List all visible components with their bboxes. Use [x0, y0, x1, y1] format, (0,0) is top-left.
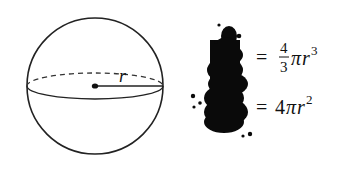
center-point [92, 83, 98, 88]
coefficient: 4 [275, 96, 285, 118]
volume-formula: = 4 3 π r 3 [256, 40, 318, 75]
exponent: 2 [306, 92, 313, 107]
pi-symbol: π [291, 47, 302, 69]
fraction-denominator: 3 [280, 59, 288, 75]
sphere-formula-diagram: r = 4 3 π r 3 = 4 π r 2 [0, 0, 342, 179]
variable-r: r [297, 96, 305, 118]
surface-area-formula: = 4 π r 2 [256, 92, 313, 118]
radius-label: r [119, 66, 127, 86]
equals-sign: = [256, 96, 267, 118]
pi-symbol: π [286, 96, 297, 118]
ink-blot-icon [191, 23, 252, 137]
variable-r: r [302, 47, 310, 69]
equals-sign: = [256, 46, 267, 68]
fraction-numerator: 4 [280, 40, 288, 56]
exponent: 3 [311, 43, 318, 58]
sphere: r [27, 18, 163, 154]
